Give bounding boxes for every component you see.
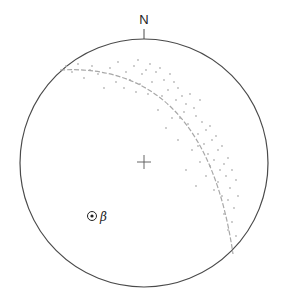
pole-point xyxy=(219,169,221,171)
pole-point xyxy=(65,65,67,67)
pole-point xyxy=(83,77,85,79)
pole-point xyxy=(201,121,203,123)
pole-point xyxy=(151,81,153,83)
pole-point xyxy=(231,169,233,171)
pole-point xyxy=(169,73,171,75)
pole-point xyxy=(235,179,237,181)
pole-point xyxy=(237,195,239,197)
pole-point xyxy=(197,133,199,135)
pole-point xyxy=(173,81,175,83)
pole-point xyxy=(177,87,179,89)
pole-point xyxy=(205,175,207,177)
pole-point xyxy=(225,175,227,177)
stereonet-diagram: N β xyxy=(0,0,284,305)
pole-point xyxy=(229,187,231,189)
pole-point xyxy=(199,99,201,101)
pole-point xyxy=(227,229,229,231)
pole-point xyxy=(115,81,117,83)
pole-point xyxy=(137,59,139,61)
pole-point xyxy=(195,185,197,187)
pole-point xyxy=(167,89,169,91)
pole-point xyxy=(189,93,191,95)
pole-point xyxy=(235,235,237,237)
pole-point xyxy=(133,65,135,67)
pole-point xyxy=(157,109,159,111)
pole-point xyxy=(191,149,193,151)
pole-point xyxy=(187,123,189,125)
pole-point xyxy=(223,163,225,165)
pole-point xyxy=(161,95,163,97)
pole-point xyxy=(215,135,217,137)
pole-point xyxy=(193,107,195,109)
pole-point xyxy=(71,71,73,73)
pole-point xyxy=(205,129,207,131)
pole-point xyxy=(141,73,143,75)
pole-point xyxy=(181,95,183,97)
pole-point xyxy=(209,125,211,127)
pole-point xyxy=(163,79,165,81)
pole-point xyxy=(185,103,187,105)
pole-point xyxy=(197,145,199,147)
pole-point xyxy=(221,195,223,197)
pole-point xyxy=(211,139,213,141)
pole-point xyxy=(123,87,125,89)
pole-point xyxy=(233,207,235,209)
pole-point xyxy=(109,67,111,69)
beta-point-icon xyxy=(88,212,97,221)
pole-point xyxy=(183,111,185,113)
pole-point xyxy=(171,117,173,119)
pole-point xyxy=(227,157,229,159)
pole-point xyxy=(125,71,127,73)
pole-point xyxy=(145,69,147,71)
pole-point xyxy=(77,63,79,65)
pole-point xyxy=(199,161,201,163)
pole-point xyxy=(165,127,167,129)
pole-point xyxy=(147,93,149,95)
pole-point xyxy=(103,87,105,89)
pole-point xyxy=(97,73,99,75)
pole-point xyxy=(175,99,177,101)
pole-point xyxy=(135,91,137,93)
pole-point xyxy=(227,199,229,201)
pole-point xyxy=(217,149,219,151)
pole-point xyxy=(159,67,161,69)
pole-point xyxy=(213,159,215,161)
pole-point xyxy=(155,71,157,73)
north-label: N xyxy=(139,12,148,27)
pole-point xyxy=(207,153,209,155)
pole-point xyxy=(213,189,215,191)
pole-point xyxy=(231,221,233,223)
pole-point xyxy=(195,115,197,117)
pole-points xyxy=(65,59,239,237)
pole-point xyxy=(221,145,223,147)
pole-point xyxy=(117,61,119,63)
pole-point xyxy=(91,65,93,67)
pole-point xyxy=(217,181,219,183)
pole-point xyxy=(185,169,187,171)
center-cross-icon xyxy=(137,155,151,169)
pole-point xyxy=(203,143,205,145)
pole-point xyxy=(177,139,179,141)
pole-point xyxy=(149,63,151,65)
beta-label: β xyxy=(99,210,107,224)
